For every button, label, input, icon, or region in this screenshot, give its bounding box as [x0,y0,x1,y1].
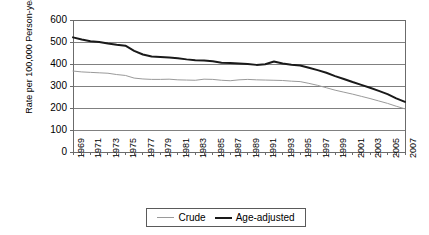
series-line [73,37,405,101]
legend-item-age-adjusted: Age-adjusted [215,213,295,223]
x-tick-label: 1991 [269,138,278,158]
x-tick-label: 1999 [339,138,348,158]
x-tick-label: 1993 [287,138,296,158]
x-tick-label: 1987 [234,138,243,158]
x-tick-label: 2005 [392,138,401,158]
data-series [73,37,405,109]
x-tick-label: 2001 [357,138,366,158]
x-tick-label: 1969 [77,138,86,158]
x-tick-label: 2007 [409,138,418,158]
series-line [73,71,405,109]
x-tick-label: 1977 [147,138,156,158]
x-tick-label: 1995 [304,138,313,158]
x-tick-label: 1979 [164,138,173,158]
x-tick-label: 1983 [199,138,208,158]
x-tick-label: 1989 [252,138,261,158]
legend-line-icon-crude [157,217,174,218]
line-chart: Rate per 100,000 Person-years 0100200300… [0,0,429,235]
x-tick-label: 1975 [129,138,138,158]
x-tick-label: 1981 [182,138,191,158]
x-tick-label: 1973 [112,138,121,158]
x-tick-label: 1971 [94,138,103,158]
plot-area [0,0,429,235]
legend-item-crude: Crude [157,213,205,223]
x-tick-label: 1997 [322,138,331,158]
x-tick-label: 2003 [374,138,383,158]
legend-line-icon-age-adjusted [215,217,232,219]
chart-legend: Crude Age-adjusted [146,208,306,227]
legend-label-crude: Crude [178,213,205,223]
gridlines [73,20,405,152]
x-tick-label: 1985 [217,138,226,158]
legend-label-age-adjusted: Age-adjusted [236,213,295,223]
